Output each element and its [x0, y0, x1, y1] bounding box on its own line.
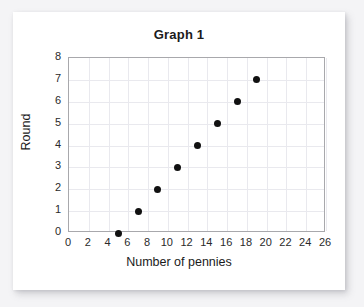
x-tick-label: 10	[156, 236, 178, 248]
x-tick-label: 2	[77, 236, 99, 248]
gridline-vertical-6	[128, 58, 129, 231]
x-tick-label: 26	[314, 236, 336, 248]
data-point	[154, 186, 161, 193]
x-tick-label: 16	[215, 236, 237, 248]
x-tick-label: 6	[116, 236, 138, 248]
data-point	[174, 164, 181, 171]
x-tick-label: 0	[57, 236, 79, 248]
x-tick-label: 14	[195, 236, 217, 248]
y-tick-label: 1	[41, 203, 61, 215]
gridline-vertical-18	[247, 58, 248, 231]
x-tick-label: 18	[235, 236, 257, 248]
gridline-horizontal-3	[69, 167, 324, 168]
gridline-vertical-14	[207, 58, 208, 231]
x-tick-label: 22	[274, 236, 296, 248]
data-point	[135, 208, 142, 215]
data-point	[214, 120, 221, 127]
gridline-vertical-22	[286, 58, 287, 231]
x-axis-title: Number of pennies	[13, 255, 345, 269]
gridline-vertical-20	[267, 58, 268, 231]
y-tick-label: 3	[41, 159, 61, 171]
y-tick-label: 2	[41, 181, 61, 193]
gridline-horizontal-6	[69, 102, 324, 103]
gridline-vertical-4	[109, 58, 110, 231]
gridline-vertical-10	[168, 58, 169, 231]
gridline-vertical-2	[89, 58, 90, 231]
gridline-vertical-24	[306, 58, 307, 231]
x-tick-label: 12	[176, 236, 198, 248]
y-tick-label: 7	[41, 72, 61, 84]
screenshot-root: Graph 1 02468101214161820222426 01234567…	[0, 0, 364, 307]
x-tick-label: 24	[294, 236, 316, 248]
gridline-vertical-12	[188, 58, 189, 231]
data-point	[234, 98, 241, 105]
gridline-horizontal-5	[69, 124, 324, 125]
y-tick-label: 5	[41, 116, 61, 128]
plot-area	[68, 57, 325, 232]
gridline-horizontal-2	[69, 189, 324, 190]
y-tick-label: 8	[41, 50, 61, 62]
y-tick-label: 0	[41, 225, 61, 237]
gridline-horizontal-7	[69, 80, 324, 81]
gridline-horizontal-1	[69, 211, 324, 212]
y-axis-title: Round	[19, 97, 33, 167]
chart-card: Graph 1 02468101214161820222426 01234567…	[13, 12, 345, 290]
x-tick-label: 8	[136, 236, 158, 248]
chart-title: Graph 1	[13, 27, 345, 42]
data-point	[194, 142, 201, 149]
data-point	[253, 76, 260, 83]
x-tick-label: 20	[255, 236, 277, 248]
x-tick-label: 4	[97, 236, 119, 248]
y-tick-label: 6	[41, 94, 61, 106]
gridline-vertical-16	[227, 58, 228, 231]
gridline-vertical-8	[148, 58, 149, 231]
y-tick-label: 4	[41, 138, 61, 150]
gridline-vertical-26	[326, 58, 327, 231]
